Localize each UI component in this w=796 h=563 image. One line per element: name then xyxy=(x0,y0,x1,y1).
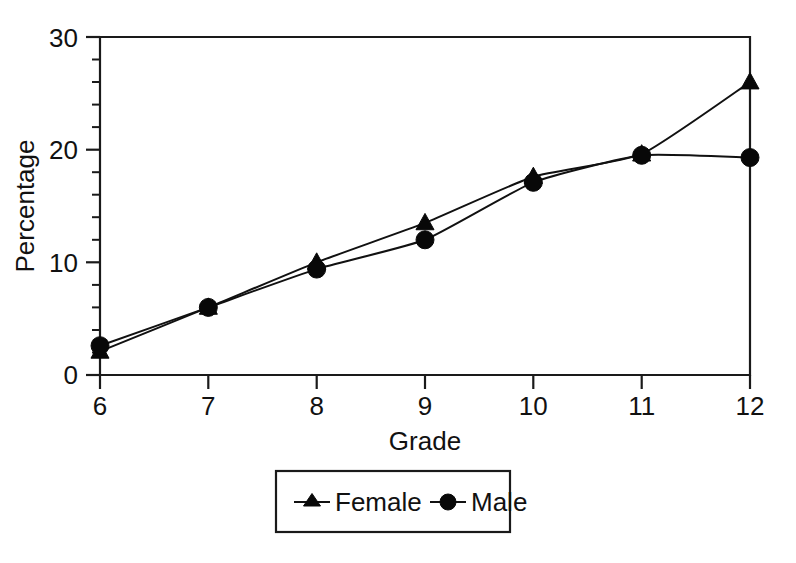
x-tick-label-7: 7 xyxy=(201,391,215,421)
x-tick-label-8: 8 xyxy=(309,391,323,421)
x-tick-label-10: 10 xyxy=(519,391,548,421)
data-point-male-7 xyxy=(199,298,217,316)
x-axis-title: Grade xyxy=(389,426,461,456)
y-axis-major-ticks xyxy=(86,37,100,375)
y-axis-tick-labels: 0 10 20 30 xyxy=(49,23,78,391)
chart-figure: 0 10 20 30 Percentage 6 7 8 9 10 11 12 xyxy=(0,0,796,563)
y-axis-minor-ticks xyxy=(92,60,100,353)
data-point-male-11 xyxy=(633,146,651,164)
x-tick-label-11: 11 xyxy=(628,391,655,421)
data-point-male-10 xyxy=(524,173,542,191)
x-axis-tick-labels: 6 7 8 9 10 11 12 xyxy=(93,391,765,421)
y-tick-label-0: 0 xyxy=(64,360,78,390)
plot-frame xyxy=(100,37,750,375)
y-tick-label-20: 20 xyxy=(49,135,78,165)
x-tick-label-9: 9 xyxy=(418,391,432,421)
data-point-male-12 xyxy=(741,149,759,167)
y-axis-title: Percentage xyxy=(10,140,40,273)
data-point-female-12 xyxy=(741,73,759,89)
line-chart-canvas: 0 10 20 30 Percentage 6 7 8 9 10 11 12 xyxy=(0,0,796,563)
data-point-male-8 xyxy=(308,260,326,278)
legend-label-male: Male xyxy=(471,487,527,517)
y-tick-label-30: 30 xyxy=(49,23,78,53)
data-point-male-9 xyxy=(416,231,434,249)
data-point-female-9 xyxy=(416,213,434,229)
legend-label-female: Female xyxy=(335,487,422,517)
x-tick-label-12: 12 xyxy=(736,391,765,421)
series-line-male xyxy=(100,155,750,346)
data-point-male-6 xyxy=(91,337,109,355)
plot-border xyxy=(100,37,750,375)
x-tick-label-6: 6 xyxy=(93,391,107,421)
series-markers-male xyxy=(91,146,759,354)
y-tick-label-10: 10 xyxy=(49,248,78,278)
circle-icon xyxy=(440,494,456,510)
x-axis-ticks xyxy=(100,375,750,389)
legend[interactable]: Female Male xyxy=(276,471,527,532)
